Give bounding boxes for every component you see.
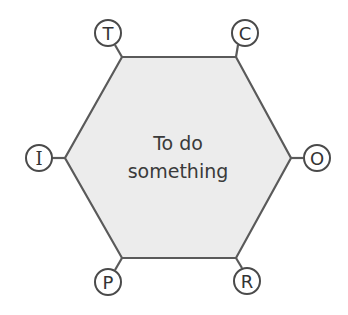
connector-r: [236, 258, 242, 268]
center-label-line2: something: [128, 160, 229, 182]
aspect-node-r[interactable]: R: [234, 268, 260, 294]
aspect-node-i[interactable]: I: [26, 145, 52, 171]
aspect-node-p[interactable]: P: [95, 269, 121, 295]
aspect-node-c[interactable]: C: [232, 20, 258, 46]
center-label-line1: To do: [152, 132, 203, 154]
aspect-label-o: O: [310, 148, 324, 169]
hexagon-diagram: To do something T C I O P R: [0, 0, 348, 315]
aspect-node-o[interactable]: O: [304, 145, 330, 171]
aspect-label-r: R: [241, 271, 254, 292]
aspect-label-t: T: [102, 23, 115, 44]
aspect-label-p: P: [103, 272, 114, 293]
aspect-node-t[interactable]: T: [95, 20, 121, 46]
aspect-label-c: C: [239, 23, 252, 44]
connector-t: [115, 45, 122, 57]
aspect-label-i: I: [35, 148, 42, 169]
connector-p: [115, 258, 122, 270]
function-hexagon[interactable]: [65, 57, 291, 258]
connector-c: [236, 45, 238, 57]
